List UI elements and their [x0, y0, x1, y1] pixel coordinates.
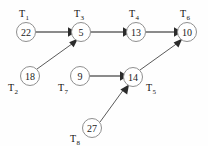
node-value: 5 [79, 27, 84, 38]
node-label-base: T [129, 8, 135, 19]
node-t1[interactable]: 22 T1 [17, 8, 36, 42]
edge-line [100, 89, 124, 122]
node-label: T4 [129, 8, 140, 22]
node-label: T2 [8, 82, 19, 96]
node-value: 18 [25, 71, 35, 82]
edge-t1-t3 [36, 27, 76, 37]
node-label: T3 [74, 8, 85, 22]
edge-line [140, 44, 177, 71]
node-t4[interactable]: 13 T4 [127, 8, 146, 42]
edge-t7-t5 [90, 71, 128, 81]
node-label: T6 [180, 8, 191, 22]
node-value: 22 [21, 27, 31, 38]
node-label-subscript: 2 [15, 88, 19, 96]
node-t8[interactable]: 27 T8 [70, 119, 102, 147]
edge-t4-t6 [146, 27, 182, 37]
node-label-base: T [8, 82, 14, 93]
diagram-canvas: 22 T1 5 T3 13 T4 10 T6 [0, 0, 208, 146]
node-label: T7 [58, 82, 69, 96]
node-label: T1 [19, 8, 30, 22]
node-label-base: T [70, 133, 76, 144]
node-t7[interactable]: 9 T7 [58, 67, 90, 96]
node-layer: 22 T1 5 T3 13 T4 10 T6 [8, 8, 197, 146]
node-t2[interactable]: 18 T2 [8, 67, 40, 96]
node-label: T5 [146, 82, 157, 96]
node-label-subscript: 3 [81, 14, 85, 22]
node-label-subscript: 6 [187, 14, 191, 22]
task-dependency-graph: 22 T1 5 T3 13 T4 10 T6 [0, 0, 208, 146]
node-label-base: T [146, 82, 152, 93]
node-value: 13 [131, 27, 141, 38]
node-value: 14 [128, 72, 138, 83]
edge-t8-t5-diagonal [100, 84, 129, 122]
node-label: T8 [70, 133, 81, 146]
node-label-subscript: 1 [26, 14, 30, 22]
node-label-subscript: 5 [153, 88, 157, 96]
node-label-base: T [180, 8, 186, 19]
node-label-subscript: 8 [77, 139, 81, 147]
node-label-subscript: 4 [136, 14, 140, 22]
node-label-subscript: 7 [65, 88, 69, 96]
node-value: 9 [78, 71, 83, 82]
edge-t5-t6-diagonal [140, 39, 182, 70]
node-value: 10 [182, 27, 192, 38]
edge-line [37, 44, 73, 70]
edge-layer [36, 27, 182, 122]
edge-t2-t5-diagonal [37, 39, 78, 69]
node-t6[interactable]: 10 T6 [178, 8, 197, 42]
node-t5[interactable]: 14 T5 [124, 68, 157, 96]
node-label-base: T [19, 8, 25, 19]
node-label-base: T [58, 82, 64, 93]
node-value: 27 [87, 123, 97, 134]
node-label-base: T [74, 8, 80, 19]
edge-t3-t4 [91, 27, 131, 37]
node-t3[interactable]: 5 T3 [72, 8, 91, 42]
